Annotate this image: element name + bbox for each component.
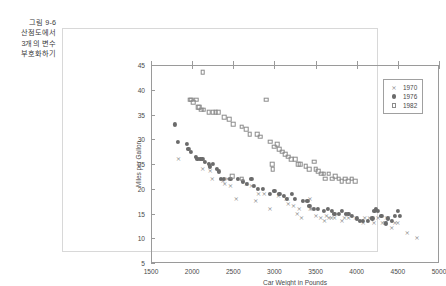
x-tick-label: 5000 [432, 268, 446, 275]
y-tick-mark [151, 139, 155, 140]
caption-line-2: 산점도에서 [0, 28, 56, 38]
legend-item-1970[interactable]: ×1970 [388, 83, 417, 92]
figure-caption: 그림 9-6 산점도에서 3개의 변수 부호화하기 [0, 18, 56, 60]
x-tick-mark-top [316, 65, 317, 69]
x-tick-mark-top [357, 65, 358, 69]
y-axis-title: Miles per Gallon [135, 141, 142, 187]
y-tick-mark [151, 238, 155, 239]
figure-frame: 51015202530354045 1500200025003000350040… [62, 28, 378, 252]
x-tick-label: 3500 [308, 268, 323, 275]
scatter-plot: 51015202530354045 1500200025003000350040… [151, 65, 439, 263]
legend-label: 1982 [403, 102, 417, 109]
x-tick-label: 1500 [144, 268, 159, 275]
cross-icon: × [388, 85, 400, 91]
y-tick-mark [151, 189, 155, 190]
y-tick-label: 35 [138, 111, 145, 118]
y-tick-label: 40 [138, 86, 145, 93]
caption-line-1: 그림 9-6 [0, 18, 56, 28]
y-tick-mark [151, 263, 155, 264]
x-tick-label: 2500 [226, 268, 241, 275]
x-tick-mark-top [233, 65, 234, 69]
legend-item-1976[interactable]: 1976 [388, 92, 417, 101]
x-tick-label: 3000 [267, 268, 282, 275]
y-tick-label: 5 [141, 260, 145, 267]
x-tick-mark-top [151, 65, 152, 69]
x-tick-label: 4000 [349, 268, 364, 275]
y-tick-mark [151, 115, 155, 116]
legend-item-1982[interactable]: 1982 [388, 101, 417, 110]
y-tick-mark [151, 90, 155, 91]
x-tick-mark-top [398, 65, 399, 69]
y-tick-mark [151, 164, 155, 165]
caption-line-3: 3개의 변수 [0, 39, 56, 49]
y-tick-label: 10 [138, 235, 145, 242]
x-tick-mark-top [274, 65, 275, 69]
x-tick-label: 4500 [391, 268, 406, 275]
open-square-icon [388, 103, 400, 108]
x-tick-mark-top [192, 65, 193, 69]
x-axis-title: Car Weight in Pounds [263, 279, 327, 286]
legend-label: 1976 [403, 93, 417, 100]
y-tick-label: 15 [138, 210, 145, 217]
legend-label: 1970 [403, 84, 417, 91]
chart-legend: ×197019761982 [383, 79, 423, 114]
caption-line-4: 부호화하기 [0, 49, 56, 59]
x-tick-mark-top [439, 65, 440, 69]
y-tick-mark [151, 214, 155, 215]
filled-circle-icon [388, 94, 400, 98]
x-tick-label: 2000 [185, 268, 200, 275]
y-tick-label: 45 [138, 62, 145, 69]
